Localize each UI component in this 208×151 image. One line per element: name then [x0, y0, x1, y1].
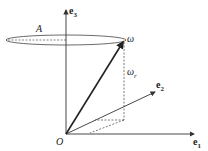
origin-label: O	[56, 137, 63, 147]
omega-r-label: ωr	[127, 67, 137, 81]
omega-label: ω	[127, 34, 134, 44]
e2-label: e2	[156, 80, 164, 94]
e1-label: e1	[193, 137, 201, 151]
A-label: A	[36, 24, 42, 34]
diagram: e3 A ω ωr e2 O e1	[0, 0, 208, 151]
diagram-svg	[0, 0, 208, 151]
e3-label: e3	[69, 6, 77, 20]
